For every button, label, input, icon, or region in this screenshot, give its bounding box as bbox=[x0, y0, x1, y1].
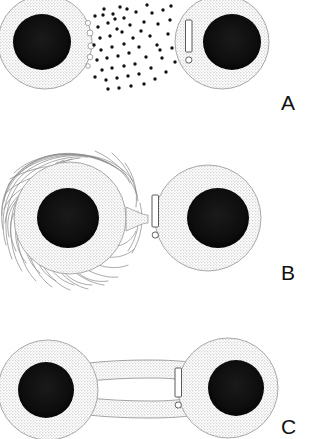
panel-b-sender-cell bbox=[14, 162, 126, 274]
panel-label-c: C bbox=[281, 416, 296, 437]
nucleus bbox=[208, 360, 264, 416]
panel-b-direct-contact bbox=[0, 145, 316, 300]
panel-a-receiver-cell bbox=[175, 0, 269, 89]
panel-a-sender-cell bbox=[0, 0, 92, 89]
panel-c-sender-cell bbox=[0, 340, 98, 439]
nucleus bbox=[203, 14, 261, 70]
figure-root: A B C bbox=[0, 0, 316, 439]
panel-label-b: B bbox=[281, 262, 295, 283]
nucleus bbox=[13, 14, 71, 70]
panel-c-cytoplasmic-bridge bbox=[0, 300, 316, 439]
signal-particle-cloud bbox=[92, 3, 176, 90]
panel-b-receiver-cell bbox=[152, 165, 261, 271]
nucleus bbox=[37, 188, 99, 248]
panel-label-a: A bbox=[281, 92, 295, 113]
panel-a-diffusible-signal bbox=[0, 0, 316, 145]
membrane-junction bbox=[126, 207, 148, 231]
exclamation-mark-icon bbox=[175, 368, 182, 408]
nucleus bbox=[18, 362, 74, 418]
nucleus bbox=[187, 188, 249, 248]
panel-c-receiver-cell bbox=[175, 338, 278, 438]
